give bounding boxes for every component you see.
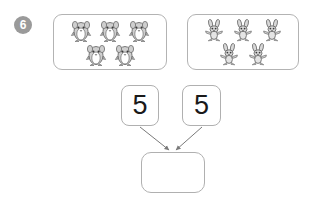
rabbit-icon-row [218,43,269,66]
addend-value-right: 5 [194,92,209,119]
penguin-icon [70,19,92,42]
penguin-icon-row [85,43,136,66]
arrow-right-to-answer [176,127,202,150]
rabbit-icon-grid [188,15,298,69]
rabbit-icon-row [203,19,283,42]
arrow-left-to-answer [140,127,169,150]
addend-box-right[interactable]: 5 [182,85,221,126]
group-box-rabbits [187,14,299,70]
rabbit-icon [261,19,283,42]
penguin-icon [114,43,136,66]
penguin-icon [85,43,107,66]
rabbit-icon [203,19,225,42]
question-number-badge: 6 [14,16,32,34]
penguin-icon-row [70,19,150,42]
worksheet-page: 6 [0,0,313,211]
penguin-icon [128,19,150,42]
rabbit-icon [218,43,240,66]
rabbit-icon [232,19,254,42]
penguin-icon [99,19,121,42]
addend-box-left[interactable]: 5 [121,85,159,126]
answer-box[interactable] [141,152,205,193]
penguin-icon-grid [54,15,166,69]
addend-value-left: 5 [132,92,147,119]
rabbit-icon [247,43,269,66]
group-box-penguins [53,14,167,70]
